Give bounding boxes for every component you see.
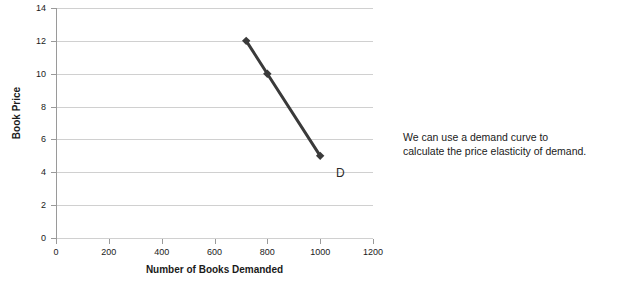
chart-plot-area: Book Price Number of Books Demanded D 02… [0, 0, 400, 289]
demand-curve-series [0, 0, 400, 289]
y-tick-mark [51, 205, 56, 206]
y-tick-mark [51, 139, 56, 140]
x-tick-mark [109, 239, 110, 244]
y-tick-label: 6 [0, 135, 46, 144]
x-tick-label: 600 [185, 248, 245, 257]
y-tick-label: 12 [0, 37, 46, 46]
x-tick-mark [373, 239, 374, 244]
x-tick-mark [267, 239, 268, 244]
x-tick-label: 400 [132, 248, 192, 257]
demand-curve-line [246, 41, 320, 156]
curve-label-d: D [336, 167, 345, 179]
demand-curve-figure: Book Price Number of Books Demanded D 02… [0, 0, 625, 289]
y-tick-mark [51, 8, 56, 9]
y-tick-mark [51, 107, 56, 108]
y-tick-label: 8 [0, 103, 46, 112]
y-tick-label: 0 [0, 234, 46, 243]
x-tick-label: 1000 [290, 248, 350, 257]
y-tick-mark [51, 41, 56, 42]
y-tick-label: 2 [0, 201, 46, 210]
note-line-2: calculate the price elasticity of demand… [403, 144, 618, 158]
y-tick-label: 14 [0, 4, 46, 13]
x-tick-label: 1200 [343, 248, 403, 257]
note-line-1: We can use a demand curve to [403, 130, 618, 144]
x-tick-label: 0 [26, 248, 86, 257]
y-tick-mark [51, 74, 56, 75]
y-tick-label: 10 [0, 70, 46, 79]
x-tick-mark [215, 239, 216, 244]
explanatory-note: We can use a demand curve to calculate t… [403, 130, 618, 158]
x-tick-label: 800 [237, 248, 297, 257]
x-tick-label: 200 [79, 248, 139, 257]
x-tick-mark [320, 239, 321, 244]
x-tick-mark [162, 239, 163, 244]
y-tick-mark [51, 172, 56, 173]
y-tick-label: 4 [0, 168, 46, 177]
x-tick-mark [56, 239, 57, 244]
